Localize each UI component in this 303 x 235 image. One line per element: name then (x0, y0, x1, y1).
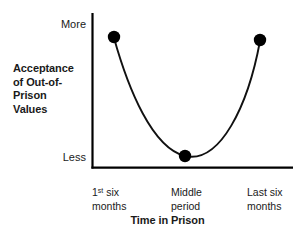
data-point-middle-period (179, 150, 191, 162)
x-tick-2-line-1: Last six (247, 186, 283, 198)
x-tick-0-line-2: months (92, 200, 126, 212)
x-tick-2-line-2: months (247, 200, 281, 212)
data-point-last-six-months (254, 34, 266, 46)
x-tick-1-line-1: Middle (171, 186, 202, 198)
chart-figure: Acceptance of Out-of- Prison Values More… (0, 0, 303, 235)
y-tick-label-more: More (44, 18, 86, 31)
x-axis-title: Time in Prison (0, 214, 303, 226)
data-point-first-six-months (108, 31, 120, 43)
y-axis-title: Acceptance of Out-of- Prison Values (13, 62, 89, 116)
x-tick-0-rest: six (103, 186, 119, 198)
y-axis-title-line-3: Prison (13, 89, 47, 101)
x-tick-label-last-six-months: Last six months (247, 186, 283, 213)
y-axis-title-line-2: of Out-of- (13, 76, 62, 88)
x-tick-label-middle-period: Middle period (171, 186, 202, 213)
y-tick-label-less: Less (44, 151, 86, 164)
x-tick-1-line-2: period (171, 200, 200, 212)
x-tick-label-first-six-months: 1st six months (92, 186, 126, 213)
y-axis-title-line-1: Acceptance (13, 62, 74, 74)
y-axis-title-line-4: Values (13, 103, 47, 115)
data-curve (114, 38, 260, 157)
